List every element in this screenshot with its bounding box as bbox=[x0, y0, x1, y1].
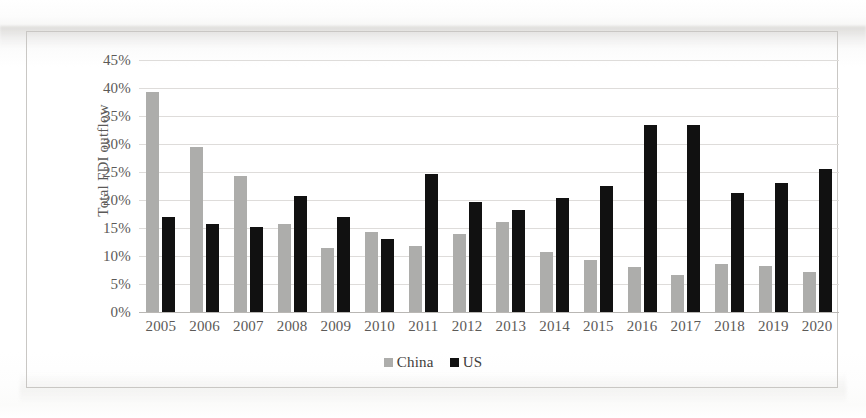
bar-group-2009 bbox=[314, 60, 358, 312]
bar-china-2018[interactable] bbox=[715, 264, 728, 312]
bar-china-2015[interactable] bbox=[584, 260, 597, 312]
china-swatch-icon bbox=[384, 358, 393, 367]
x-axis-tick-2008: 2008 bbox=[270, 318, 314, 335]
bar-china-2017[interactable] bbox=[671, 275, 684, 312]
bar-us-2007[interactable] bbox=[250, 227, 263, 312]
bar-us-2010[interactable] bbox=[381, 239, 394, 312]
bar-group-2020 bbox=[795, 60, 839, 312]
bar-china-2016[interactable] bbox=[628, 267, 641, 312]
bar-group-2010 bbox=[358, 60, 402, 312]
x-axis-tick-labels: 2005200620072008200920102011201220132014… bbox=[139, 318, 839, 335]
y-axis-tick-45: 45% bbox=[79, 52, 131, 69]
bar-group-2012 bbox=[445, 60, 489, 312]
bar-us-2017[interactable] bbox=[687, 125, 700, 312]
bar-group-2011 bbox=[402, 60, 446, 312]
bar-china-2005[interactable] bbox=[146, 92, 159, 312]
chart-container: Total FDI outflow 45%40%35%30%25%20%15%1… bbox=[26, 31, 838, 388]
bar-us-2008[interactable] bbox=[294, 196, 307, 312]
y-axis-tick-30: 30% bbox=[79, 136, 131, 153]
x-axis-tick-2011: 2011 bbox=[402, 318, 446, 335]
bar-china-2014[interactable] bbox=[540, 252, 553, 312]
x-axis-tick-2018: 2018 bbox=[708, 318, 752, 335]
bar-china-2012[interactable] bbox=[453, 234, 466, 312]
y-axis-tick-20: 20% bbox=[79, 192, 131, 209]
bar-us-2009[interactable] bbox=[337, 217, 350, 312]
us-swatch-icon bbox=[450, 358, 459, 367]
bar-series-layer bbox=[139, 60, 839, 312]
x-axis-tick-2006: 2006 bbox=[183, 318, 227, 335]
x-axis-tick-2007: 2007 bbox=[227, 318, 271, 335]
bar-group-2015 bbox=[577, 60, 621, 312]
x-axis-tick-2015: 2015 bbox=[577, 318, 621, 335]
legend-label-china: China bbox=[397, 354, 434, 371]
bar-group-2019 bbox=[752, 60, 796, 312]
y-axis-tick-labels: 45%40%35%30%25%20%15%10%5%0% bbox=[71, 60, 131, 312]
bar-us-2011[interactable] bbox=[425, 174, 438, 312]
chart-legend: China US bbox=[27, 354, 839, 371]
bar-us-2013[interactable] bbox=[512, 210, 525, 312]
bar-china-2020[interactable] bbox=[803, 272, 816, 312]
x-axis-tick-2017: 2017 bbox=[664, 318, 708, 335]
y-axis-tick-15: 15% bbox=[79, 220, 131, 237]
bar-china-2013[interactable] bbox=[496, 222, 509, 312]
x-axis-baseline bbox=[139, 312, 839, 313]
x-axis-tick-2016: 2016 bbox=[620, 318, 664, 335]
y-axis-tick-5: 5% bbox=[79, 276, 131, 293]
legend-item-us[interactable]: US bbox=[450, 354, 483, 371]
bar-us-2018[interactable] bbox=[731, 193, 744, 312]
y-axis-tick-0: 0% bbox=[79, 304, 131, 321]
bar-us-2014[interactable] bbox=[556, 198, 569, 312]
bar-group-2016 bbox=[620, 60, 664, 312]
bar-group-2014 bbox=[533, 60, 577, 312]
x-axis-tick-2010: 2010 bbox=[358, 318, 402, 335]
legend-item-china[interactable]: China bbox=[384, 354, 434, 371]
bar-us-2015[interactable] bbox=[600, 186, 613, 312]
legend-label-us: US bbox=[463, 354, 483, 371]
bar-us-2005[interactable] bbox=[162, 217, 175, 312]
y-axis-tick-25: 25% bbox=[79, 164, 131, 181]
bar-us-2006[interactable] bbox=[206, 224, 219, 312]
bar-us-2020[interactable] bbox=[819, 169, 832, 312]
x-axis-tick-2013: 2013 bbox=[489, 318, 533, 335]
bar-group-2007 bbox=[227, 60, 271, 312]
bar-group-2018 bbox=[708, 60, 752, 312]
bar-group-2006 bbox=[183, 60, 227, 312]
y-axis-tick-10: 10% bbox=[79, 248, 131, 265]
x-axis-tick-2014: 2014 bbox=[533, 318, 577, 335]
bar-group-2017 bbox=[664, 60, 708, 312]
bar-group-2005 bbox=[139, 60, 183, 312]
x-axis-tick-2012: 2012 bbox=[445, 318, 489, 335]
x-axis-tick-2009: 2009 bbox=[314, 318, 358, 335]
bar-china-2011[interactable] bbox=[409, 246, 422, 312]
x-axis-tick-2005: 2005 bbox=[139, 318, 183, 335]
bar-china-2009[interactable] bbox=[321, 248, 334, 312]
bar-us-2016[interactable] bbox=[644, 125, 657, 312]
bar-group-2013 bbox=[489, 60, 533, 312]
bar-china-2008[interactable] bbox=[278, 224, 291, 312]
bar-china-2007[interactable] bbox=[234, 176, 247, 312]
bar-china-2010[interactable] bbox=[365, 232, 378, 312]
y-axis-tick-40: 40% bbox=[79, 80, 131, 97]
bar-us-2019[interactable] bbox=[775, 183, 788, 312]
bar-us-2012[interactable] bbox=[469, 202, 482, 312]
x-axis-tick-2019: 2019 bbox=[752, 318, 796, 335]
bar-china-2006[interactable] bbox=[190, 147, 203, 312]
y-axis-tick-35: 35% bbox=[79, 108, 131, 125]
x-axis-tick-2020: 2020 bbox=[795, 318, 839, 335]
bar-group-2008 bbox=[270, 60, 314, 312]
bar-china-2019[interactable] bbox=[759, 266, 772, 312]
